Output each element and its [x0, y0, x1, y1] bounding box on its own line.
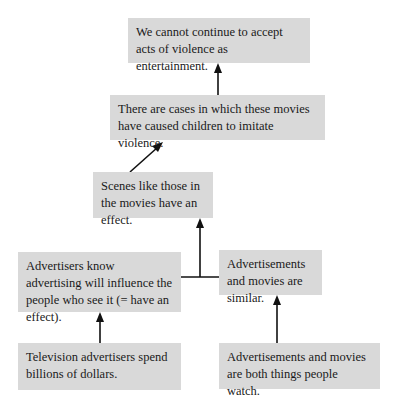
node-text: Television advertisers spend billions of… — [26, 350, 167, 381]
claim-node-tv-spend: Television advertisers spend billions of… — [18, 343, 181, 390]
arrow-n2-to-n1 — [214, 63, 222, 95]
arrow-n6-to-n4 — [96, 312, 104, 343]
claim-node-scenes-effect: Scenes like those in the movies have an … — [93, 172, 213, 218]
arrow-n7-to-n5 — [273, 295, 281, 343]
claim-node-ads-movies-similar: Advertisements and movies are similar. — [219, 250, 322, 295]
claim-node-children-imitate: There are cases in which these movies ha… — [110, 95, 325, 140]
claim-node-advertisers-know: Advertisers know advertising will influe… — [18, 252, 181, 312]
arrow-linked-n4-n5-to-n3 — [181, 218, 219, 277]
claim-node-both-watched: Advertisements and movies are both thing… — [219, 343, 380, 389]
claim-node-conclusion: We cannot continue to accept acts of vio… — [128, 18, 310, 63]
